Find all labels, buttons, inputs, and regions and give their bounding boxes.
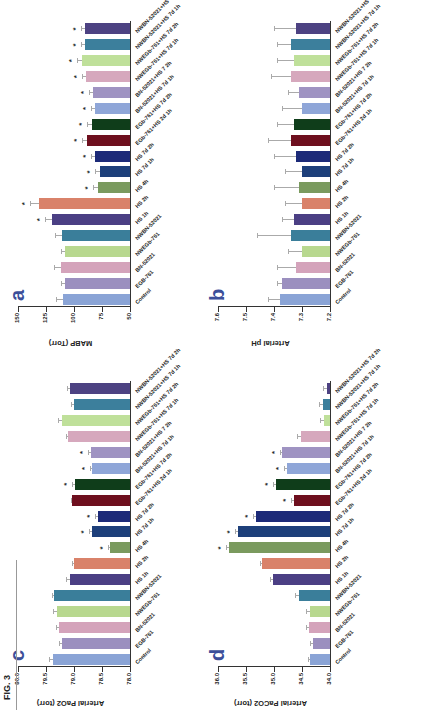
bar (57, 606, 130, 617)
bar (310, 606, 330, 617)
significance-star: * (20, 198, 29, 209)
y-tick-label: 78.5 (98, 673, 104, 703)
bar (294, 119, 330, 130)
x-tick-label: HS 2h (334, 554, 349, 569)
error-bar (55, 235, 62, 236)
significance-star: * (270, 447, 279, 458)
bar (61, 262, 130, 273)
error-cap (95, 169, 96, 174)
bar (74, 558, 130, 569)
error-cap (82, 138, 83, 143)
bar (70, 383, 130, 394)
bar (294, 495, 330, 506)
bar (299, 87, 330, 98)
significance-star: * (85, 511, 94, 522)
error-cap (53, 609, 54, 614)
error-bar (277, 124, 294, 125)
error-bar (288, 251, 302, 252)
error-cap (66, 434, 67, 439)
y-tick (302, 307, 303, 312)
chart-arterial-pao2: c Arterial PaO2 (torr)80.079.579.078.578… (10, 375, 195, 705)
bar (256, 511, 330, 522)
significance-star: * (62, 479, 71, 490)
bar (65, 278, 130, 289)
panel-letter-d: d (206, 649, 229, 661)
y-tick-label: 36.0 (214, 673, 220, 703)
bar (98, 182, 130, 193)
bar (324, 415, 330, 426)
significance-star: * (78, 447, 87, 458)
error-cap (89, 529, 90, 534)
bar (62, 230, 130, 241)
y-tick-label: 35.5 (242, 673, 248, 703)
significance-star: * (243, 511, 252, 522)
bar (291, 71, 330, 82)
error-cap (260, 561, 261, 566)
y-tick (302, 667, 303, 672)
error-bar (274, 28, 296, 29)
bar (100, 166, 130, 177)
bar (52, 214, 130, 225)
error-cap (91, 106, 92, 111)
chart-mabp: a MABP (Torr)1501251007550ControlEGB-761… (10, 15, 195, 345)
x-axis (330, 381, 331, 667)
significance-star: * (79, 526, 88, 537)
y-tick (246, 307, 247, 312)
bar (287, 463, 330, 474)
x-tick-label: HS 4h (334, 178, 349, 193)
error-bar (277, 267, 297, 268)
bar (323, 399, 330, 410)
bar (62, 415, 130, 426)
y-tick-label: 100 (70, 313, 76, 343)
error-bar (285, 203, 302, 204)
chart-arterial-ph: b Arterial pH7.67.57.47.37.2ControlEGB-7… (210, 15, 395, 345)
y-tick-label: 79.0 (70, 673, 76, 703)
error-cap (295, 593, 296, 598)
bar (74, 399, 130, 410)
error-cap (271, 74, 272, 79)
error-cap (95, 514, 96, 519)
error-cap (81, 42, 82, 47)
error-cap (82, 74, 83, 79)
error-cap (285, 169, 286, 174)
y-tick (74, 667, 75, 672)
error-cap (277, 265, 278, 270)
error-cap (282, 106, 283, 111)
error-cap (91, 154, 92, 159)
bar (63, 294, 130, 305)
error-bar (277, 60, 294, 61)
x-tick-label: Control (134, 647, 152, 665)
bar (65, 246, 130, 257)
error-cap (319, 402, 320, 407)
bar (39, 198, 130, 209)
error-cap (274, 154, 275, 159)
error-cap (55, 233, 56, 238)
bar (95, 103, 130, 114)
error-bar (268, 140, 290, 141)
error-cap (93, 185, 94, 190)
error-cap (280, 450, 281, 455)
y-tick (46, 307, 47, 312)
error-cap (45, 217, 46, 222)
bar (92, 119, 130, 130)
bar (294, 55, 330, 66)
error-cap (71, 498, 72, 503)
significance-star: * (71, 39, 80, 50)
significance-star: * (83, 182, 92, 193)
bar (229, 542, 330, 553)
chart-arterial-paco2: d Arterial PaCO2 (torr)36.035.535.034.53… (210, 375, 395, 705)
bar (302, 198, 330, 209)
y-tick-label: 78.0 (126, 673, 132, 703)
significance-star: * (35, 214, 44, 225)
error-cap (52, 593, 53, 598)
error-bar (274, 187, 299, 188)
y-tick-label: 79.5 (42, 673, 48, 703)
y-tick (46, 667, 47, 672)
error-cap (81, 26, 82, 31)
bar (54, 590, 130, 601)
bar (82, 55, 130, 66)
y-tick-label: 7.3 (298, 313, 304, 343)
bar (53, 654, 130, 665)
bar (276, 479, 330, 490)
y-tick (18, 667, 19, 672)
